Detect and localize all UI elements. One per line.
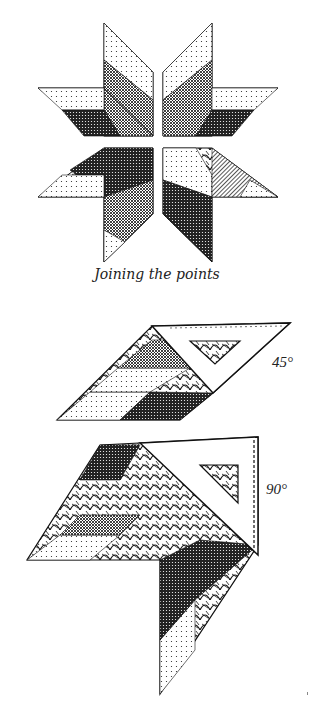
figure-caption: Joining the points	[0, 266, 314, 282]
star-section-bottom-right	[163, 148, 278, 262]
diagram-90-degree	[27, 437, 258, 694]
angle-label-90: 90°	[266, 481, 287, 498]
angle-label-45: 45°	[272, 354, 293, 371]
star-section-bottom-left	[38, 148, 153, 262]
quilt-illustration	[0, 0, 314, 701]
diagram-45-degree	[57, 323, 290, 420]
page-mark	[307, 692, 308, 695]
star-section-top-right	[163, 23, 278, 136]
star-section-top-left	[38, 23, 153, 136]
star-block	[38, 23, 278, 262]
